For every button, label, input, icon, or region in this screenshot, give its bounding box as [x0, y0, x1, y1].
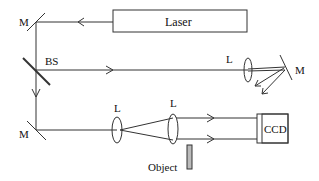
beam-lens-to-mirror-1 [248, 67, 285, 69]
beam-cone-bottom [120, 130, 173, 140]
lens-reference-label: L [226, 53, 233, 65]
mirror-bottom-label: M [19, 128, 29, 140]
ccd-label: CCD [264, 123, 287, 135]
beam-cone-top [120, 118, 173, 130]
mirror-top-label: M [19, 16, 29, 28]
object-slab [187, 145, 192, 169]
beam-splitter-label: BS [45, 55, 58, 67]
optical-setup-diagram: Laser M BS L M M L L CCD Object [0, 0, 319, 181]
lens-1-label: L [114, 102, 121, 114]
laser-label: Laser [165, 15, 192, 29]
mirror-reference-label: M [295, 64, 305, 76]
object-label: Object [148, 161, 177, 173]
lens-2-label: L [170, 97, 177, 109]
reflected-ray-2 [262, 70, 285, 94]
